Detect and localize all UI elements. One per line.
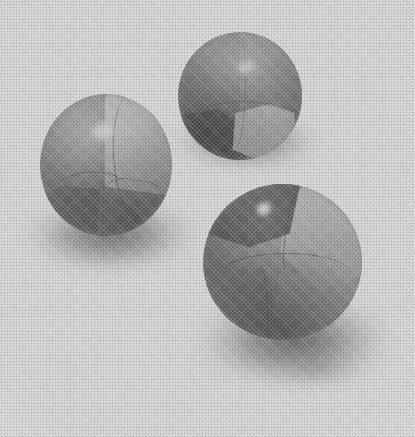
juggling-ball-bottom-right [203,184,362,340]
juggling-ball-left [40,94,172,236]
scene [0,0,415,437]
juggling-ball-top [178,32,302,160]
photograph-canvas: Three round stitched-panel juggling ball… [0,0,415,437]
ball-right-shading [203,184,362,340]
ball-left-shading [40,94,172,236]
ball-top-shading [178,32,302,160]
shadow-tail [268,352,388,394]
